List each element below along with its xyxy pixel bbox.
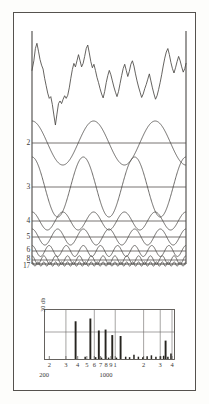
spectrum-ticks	[49, 356, 172, 359]
scanned-figure-plate: 2 3 4 5 6 8 17 30 db 234567891234 200 10…	[0, 0, 209, 404]
waveform-svg	[31, 31, 188, 267]
row-label-4: 4	[18, 217, 30, 225]
spectrum-vgrid	[66, 310, 172, 359]
composite-waveform-trace	[32, 43, 186, 125]
tick-label-2000: 2	[140, 362, 148, 369]
row-label-17: 17	[17, 262, 30, 270]
row-label-3: 3	[18, 183, 30, 191]
row-label-6: 6	[18, 246, 30, 254]
spectrum-bars	[76, 319, 171, 359]
tick-label-3000: 3	[156, 362, 164, 369]
row-label-5: 5	[18, 233, 30, 241]
spectrum-svg	[44, 309, 175, 361]
tick-label-300: 3	[62, 362, 70, 369]
harmonic-baselines	[32, 143, 186, 260]
tick-label-4000: 4	[168, 362, 176, 369]
decade-label-200: 200	[33, 372, 55, 379]
spectrum-frame	[45, 310, 175, 360]
tick-label-2: 2	[45, 362, 53, 369]
spectrum-y-axis-label: 30 db	[40, 268, 52, 312]
harmonic-decomposition-panel: 2 3 4 5 6 8 17	[31, 31, 188, 267]
decade-label-1000: 1000	[95, 372, 117, 379]
line-spectrum-panel	[44, 309, 175, 361]
row-label-2: 2	[18, 139, 30, 147]
tick-label-400: 4	[74, 362, 82, 369]
tick-label-1000: 1	[111, 362, 119, 369]
